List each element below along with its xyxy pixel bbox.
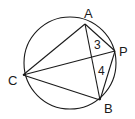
angle-label-4: 4: [98, 64, 105, 78]
label-p: P: [119, 44, 128, 59]
label-a: A: [84, 6, 93, 21]
angle-label-3: 3: [94, 38, 101, 52]
label-c: C: [8, 73, 17, 88]
segment-cb: [23, 75, 100, 100]
label-b: B: [104, 101, 113, 116]
circle-geometry-diagram: A P B C 3 4: [0, 0, 135, 119]
